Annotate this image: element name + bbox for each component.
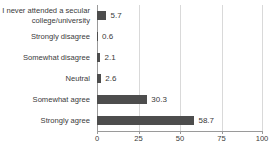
bar-value-label: 2.6: [105, 74, 116, 83]
bar-value-label: 5.7: [110, 11, 121, 20]
bar-somewhat-disagree: [97, 53, 100, 62]
bar-value-label: 0.6: [102, 32, 113, 41]
bar-chart: I never attended a secular college/unive…: [0, 0, 270, 149]
bar-somewhat-agree: [97, 95, 147, 104]
bar-row: 2.1: [97, 47, 263, 68]
bar-row: 2.6: [97, 68, 263, 89]
x-tick-label: 75: [217, 134, 225, 144]
x-tick-label: 50: [176, 134, 184, 144]
bar-neutral: [97, 74, 101, 83]
category-label: Strongly disagree: [0, 26, 93, 47]
category-label: Neutral: [0, 68, 93, 89]
plot-area: 5.7 0.6 2.1 2.6 30.3 58.7: [97, 5, 263, 131]
x-tick-label: 100: [256, 134, 269, 144]
x-tick-label: 25: [134, 134, 142, 144]
bar-rows: 5.7 0.6 2.1 2.6 30.3 58.7: [97, 5, 263, 131]
bar-strongly-agree: [97, 116, 194, 125]
bar-value-label: 58.7: [198, 116, 214, 125]
category-label: I never attended a secular college/unive…: [0, 5, 93, 26]
bar-value-label: 2.1: [104, 53, 115, 62]
x-tick-label: 0: [95, 134, 99, 144]
bar-value-label: 30.3: [151, 95, 167, 104]
bar-row: 30.3: [97, 89, 263, 110]
bar-row: 5.7: [97, 5, 263, 26]
x-axis-tick-labels: 0 25 50 75 100: [97, 134, 263, 148]
category-label: Strongly agree: [0, 110, 93, 131]
category-axis-labels: I never attended a secular college/unive…: [0, 5, 93, 131]
bar-row: 0.6: [97, 26, 263, 47]
category-label: Somewhat disagree: [0, 47, 93, 68]
bar-row: 58.7: [97, 110, 263, 131]
bar-strongly-disagree: [97, 32, 98, 41]
bar-never-attended: [97, 11, 106, 20]
category-label: Somewhat agree: [0, 89, 93, 110]
